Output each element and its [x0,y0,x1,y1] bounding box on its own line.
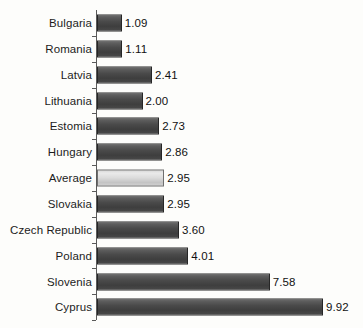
bar-value-label: 9.92 [326,301,349,314]
bar [97,40,122,57]
bar-row: Bulgaria1.09 [0,10,363,36]
category-label: Poland [56,249,92,262]
bar-row: Hungary2.86 [0,139,363,165]
category-label: Hungary [48,146,92,159]
bar [97,221,179,238]
bar-container [97,170,164,187]
bar-row: Estomia2.73 [0,113,363,139]
bar-container [97,66,152,83]
bar-value-label: 2.86 [165,146,188,159]
bar-highlighted [97,170,164,187]
bar-container [97,247,188,264]
bar-container [97,40,122,57]
category-label: Estomia [50,120,92,133]
bar-row: Lithuania2.00 [0,88,363,114]
category-label: Bulgaria [49,17,92,30]
bar-row: Average2.95 [0,165,363,191]
category-label: Latvia [61,68,92,81]
category-label: Slovakia [48,197,92,210]
bar-value-label: 2.41 [155,68,178,81]
bar-container [97,273,270,290]
bar-container [97,15,122,32]
bar-container [97,144,162,161]
bar [97,118,159,135]
bar-row: Slovenia7.58 [0,269,363,295]
axis-tick [92,320,96,321]
bar [97,144,162,161]
bar-row: Slovakia2.95 [0,191,363,217]
bar-value-label: 4.01 [191,249,214,262]
category-label: Lithuania [44,94,92,107]
bar-value-label: 7.58 [273,275,296,288]
bar-value-label: 1.09 [125,17,148,30]
plot-area: Bulgaria1.09Romania1.11Latvia2.41Lithuan… [0,0,363,328]
bar-value-label: 3.60 [182,223,205,236]
bar-container [97,195,164,212]
bar-value-label: 2.95 [167,172,190,185]
category-label: Average [49,172,92,185]
bar-value-label: 1.11 [125,42,147,55]
bar [97,195,164,212]
bar-chart: Bulgaria1.09Romania1.11Latvia2.41Lithuan… [0,0,363,328]
bar [97,299,323,316]
bar-container [97,299,323,316]
bar [97,92,143,109]
bar-value-label: 2.73 [162,120,185,133]
category-label: Slovenia [47,275,92,288]
bar [97,247,188,264]
bar [97,273,270,290]
bar-row: Poland4.01 [0,243,363,269]
category-label: Czech Republic [10,223,92,236]
bar-row: Cyprus9.92 [0,294,363,320]
bar-container [97,92,143,109]
bar-row: Latvia2.41 [0,62,363,88]
bar-container [97,221,179,238]
bar-value-label: 2.95 [167,197,190,210]
bar [97,15,122,32]
bar-row: Romania1.11 [0,36,363,62]
category-label: Romania [45,42,92,55]
category-label: Cyprus [55,301,92,314]
bar-row: Czech Republic3.60 [0,217,363,243]
bar-container [97,118,159,135]
bar-value-label: 2.00 [146,94,169,107]
bar [97,66,152,83]
